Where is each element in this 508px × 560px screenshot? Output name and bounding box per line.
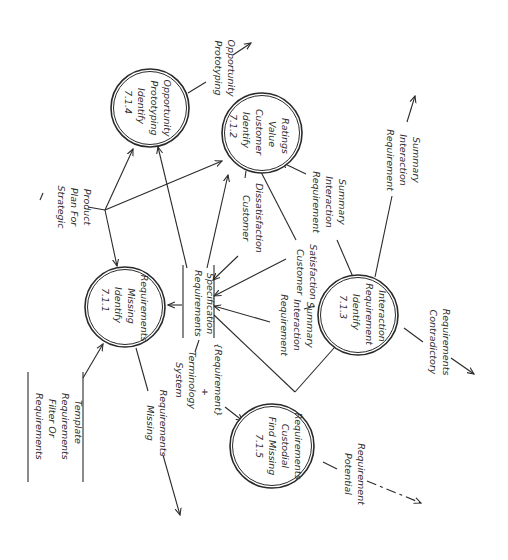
process-label: Custodial <box>280 424 291 469</box>
svg-text:Strategic: Strategic <box>56 186 67 230</box>
svg-text:Requirement: Requirement <box>385 129 396 192</box>
flow-line-missing-a <box>136 348 148 391</box>
flow-label-ris-right: Requirement Interaction Summary <box>385 129 422 192</box>
flow-arrow-ris-middle <box>214 306 270 322</box>
svg-text:System: System <box>174 362 185 397</box>
process-label: Find Missing <box>267 417 278 476</box>
store-label: Requirements <box>60 393 71 460</box>
svg-text:Summary: Summary <box>305 302 316 348</box>
process-label: 7.1.3 <box>338 295 349 319</box>
svg-text:Prototyping: Prototyping <box>213 40 224 95</box>
process-label: Requirement <box>364 283 375 346</box>
flow-line-potential-a <box>323 462 337 469</box>
process-7-1-2[interactable]: 7.1.2 Identify Customer Value Ratings <box>222 93 302 173</box>
svg-text:Contradictory: Contradictory <box>428 310 439 375</box>
flow-label-prototyping-opportunity: Prototyping Opportunity <box>213 39 237 96</box>
store-requirements-specification[interactable]: Requirements Specification <box>183 265 216 338</box>
svg-text:Satisfaction: Satisfaction <box>308 244 319 300</box>
svg-text:Potential: Potential <box>343 453 354 495</box>
process-7-1-1[interactable]: 7.1.1 Identify Missing Requirements <box>85 267 165 347</box>
process-label: Prototyping <box>149 80 160 135</box>
flow-line-ris-upper-a <box>337 240 353 277</box>
svg-text:Product: Product <box>82 189 93 227</box>
flow-label-ris-upper: Requirement Interaction Summary <box>311 171 348 234</box>
svg-text:Interaction: Interaction <box>398 134 409 186</box>
flow-line-ris-right-a <box>375 196 392 277</box>
svg-text:{Requirement}: {Requirement} <box>213 343 224 417</box>
process-label: 7.1.5 <box>254 434 265 458</box>
svg-text:Requirements: Requirements <box>441 309 452 376</box>
process-label: 7.1.4 <box>123 90 134 114</box>
process-label: Requirements <box>139 275 150 342</box>
strategic-plan-tick <box>40 193 43 200</box>
process-label: Value <box>267 121 278 147</box>
svg-text:Opportunity: Opportunity <box>226 39 237 96</box>
flow-arrow-spec-to-714 <box>158 147 187 268</box>
data-flow-diagram: Requirements Specification Requirements … <box>0 0 508 560</box>
flow-label-customer-satisfaction: Customer Satisfaction <box>295 244 319 300</box>
svg-text:Summary: Summary <box>337 179 348 225</box>
svg-text:Summary: Summary <box>411 137 422 183</box>
svg-text:Requirement: Requirement <box>279 294 290 357</box>
svg-text:+: + <box>200 388 211 396</box>
process-label: Customer <box>254 109 265 156</box>
flow-line-customer-satisfaction-a <box>261 172 296 240</box>
flow-line-prototyping-opportunity <box>188 82 206 93</box>
flow-arrow-filter-to-711 <box>83 344 103 378</box>
process-7-1-5[interactable]: 7.1.5 Find Missing Custodial Requirement… <box>230 404 314 488</box>
flow-label-strategic-plan: Strategic Plan For Product <box>56 186 93 230</box>
svg-text:Plan For: Plan For <box>69 188 80 228</box>
flow-arrow-strategic-to-711 <box>105 210 117 266</box>
svg-text:Requirement: Requirement <box>356 443 367 506</box>
svg-text:Requirement: Requirement <box>311 171 322 234</box>
flow-label-ris-middle: Requirement Interaction Summary <box>279 294 316 357</box>
flow-arrow-spec-to-712 <box>207 175 228 268</box>
svg-text:Requirements: Requirements <box>158 390 169 457</box>
process-label: Missing <box>126 288 137 323</box>
store-requirements-filter[interactable]: Requirements Filter Or Requirements Temp… <box>28 372 84 482</box>
flow-line-contradictory-a <box>404 328 423 342</box>
store-label: Specification <box>205 273 216 334</box>
store-label: Requirements <box>193 270 204 337</box>
flow-arrow-strategic-to-714 <box>105 149 133 210</box>
svg-text:Dissatisfaction: Dissatisfaction <box>254 183 265 253</box>
process-label: Identify <box>241 112 252 148</box>
process-label: 7.1.1 <box>100 288 111 312</box>
process-label: Opportunity <box>162 79 173 136</box>
process-label: Ratings <box>280 118 291 154</box>
flow-label-missing-requirements: Missing Requirements <box>145 390 169 457</box>
store-label: Requirements <box>34 393 45 460</box>
store-label: Filter Or <box>47 399 58 439</box>
svg-text:Terminology: Terminology <box>187 351 198 410</box>
flow-label-potential-requirement: Potential Requirement <box>343 443 367 506</box>
svg-text:Interaction: Interaction <box>292 299 303 351</box>
flow-label-contradictory-requirements: Contradictory Requirements <box>428 309 452 376</box>
flow-line-customer-dissatisfaction-a <box>245 171 246 178</box>
svg-text:Missing: Missing <box>145 405 156 440</box>
flow-arrow-contradictory <box>451 358 474 374</box>
svg-text:Interaction: Interaction <box>324 176 335 228</box>
process-label: Identify <box>113 287 124 323</box>
svg-text:Customer: Customer <box>241 195 252 242</box>
flow-label-customer-dissatisfaction: Customer Dissatisfaction <box>241 183 265 253</box>
store-label: Template <box>73 400 84 444</box>
process-label: Interaction <box>377 290 388 342</box>
process-7-1-4[interactable]: 7.1.4 Identify Prototyping Opportunity <box>111 69 189 147</box>
process-label: 7.1.2 <box>228 114 239 138</box>
flow-label-system-terminology: System Terminology + {Requirement} <box>174 343 224 417</box>
process-label: Requirements <box>293 413 304 480</box>
flow-arrow-ris-right <box>407 96 415 122</box>
flow-arrow-missing <box>163 455 180 515</box>
flow-arrow-potential <box>367 481 421 503</box>
process-label: Identify <box>136 88 147 124</box>
process-label: Identify <box>351 294 362 330</box>
flow-arrow-customer-satisfaction <box>214 259 286 296</box>
svg-text:Customer: Customer <box>295 249 306 296</box>
process-7-1-3[interactable]: 7.1.3 Identify Requirement Interaction <box>318 275 398 355</box>
